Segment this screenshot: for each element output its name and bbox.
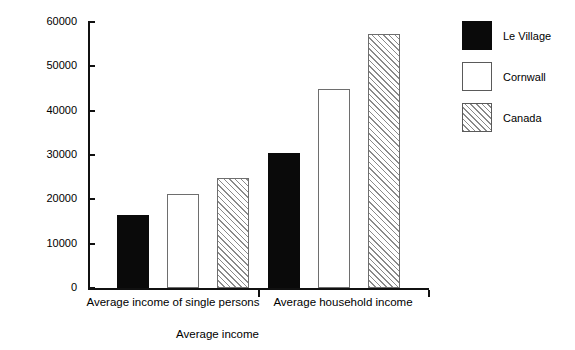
y-axis-tick-label-wrap: 20000 — [0, 193, 77, 204]
chart-legend: Le VillageCornwallCanada — [462, 21, 572, 144]
x-axis-title: Average income — [0, 328, 435, 340]
legend-item-canada[interactable]: Canada — [462, 103, 572, 133]
bar-le-village-group-1 — [117, 215, 149, 288]
y-axis-tick-label-wrap: 40000 — [0, 105, 77, 116]
y-axis-tick-label-wrap: 0 — [0, 282, 77, 293]
plot-area — [88, 22, 428, 288]
bar-chart: Income ($) 60000500004000030000200001000… — [0, 0, 575, 350]
legend-label: Cornwall — [503, 71, 546, 83]
y-axis-tick-label-wrap: 50000 — [0, 60, 77, 71]
y-axis-tick-label: 20000 — [0, 193, 77, 204]
y-axis-tick-label-wrap: 30000 — [0, 149, 77, 160]
bar-canada-group-2 — [368, 34, 400, 288]
y-axis-tick-label: 30000 — [0, 149, 77, 160]
legend-label: Canada — [503, 112, 542, 124]
legend-swatch-hatch — [462, 103, 492, 132]
y-axis-tick-label: 60000 — [0, 16, 77, 27]
y-axis-tick-label-wrap: 60000 — [0, 16, 77, 27]
bar-canada-group-1 — [217, 178, 249, 288]
legend-item-cornwall[interactable]: Cornwall — [462, 62, 572, 92]
bar-cornwall-group-1 — [167, 194, 199, 288]
legend-swatch-solid — [462, 21, 492, 50]
legend-label: Le Village — [503, 30, 551, 42]
y-axis-tick-label-wrap: 10000 — [0, 238, 77, 249]
y-axis-tick-label: 50000 — [0, 60, 77, 71]
y-axis-tick-label: 0 — [0, 282, 77, 293]
bar-cornwall-group-2 — [318, 89, 350, 289]
x-axis-group-label: Average household income — [233, 296, 453, 308]
bar-le-village-group-2 — [268, 153, 300, 288]
y-axis-tick-label: 10000 — [0, 238, 77, 249]
y-axis-tick-label: 40000 — [0, 105, 77, 116]
legend-item-le-village[interactable]: Le Village — [462, 21, 572, 51]
legend-swatch-open — [462, 62, 492, 91]
